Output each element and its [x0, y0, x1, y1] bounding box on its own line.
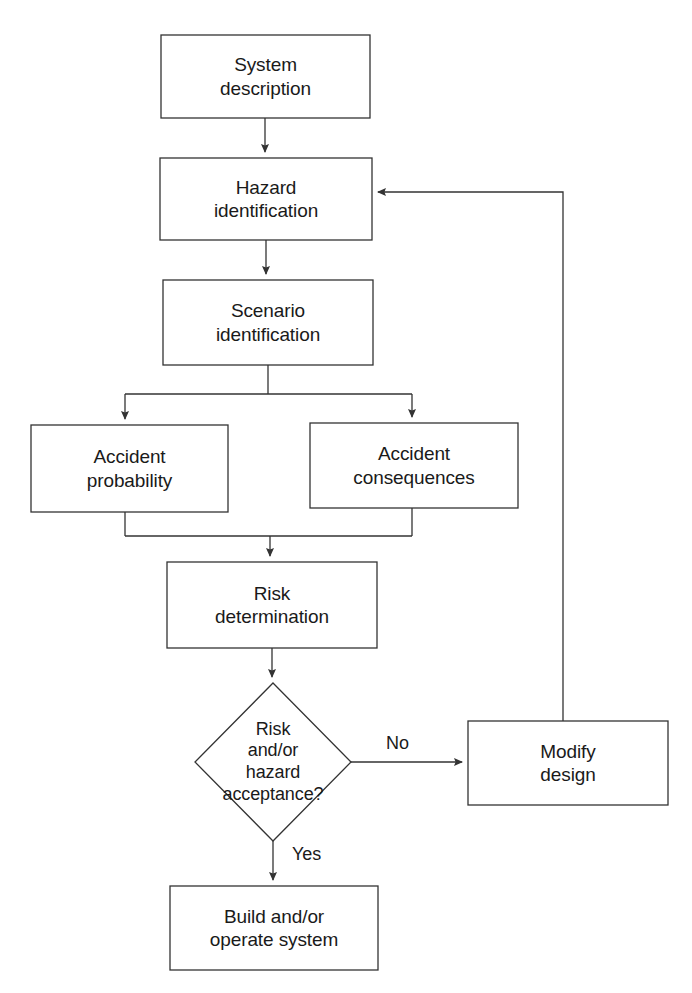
node-build-operate-system	[170, 886, 378, 970]
node-risk-determination	[167, 562, 377, 648]
node-modify-design	[468, 721, 668, 805]
node-accident-consequences	[310, 423, 518, 508]
node-scenario-identification	[163, 280, 373, 365]
flowchart-graphics	[0, 0, 692, 993]
node-risk-acceptance-decision	[195, 683, 351, 841]
node-hazard-identification	[160, 158, 372, 240]
flowchart-canvas: System description Hazard identification…	[0, 0, 692, 993]
node-accident-probability	[31, 425, 228, 512]
node-system-description	[161, 35, 370, 118]
